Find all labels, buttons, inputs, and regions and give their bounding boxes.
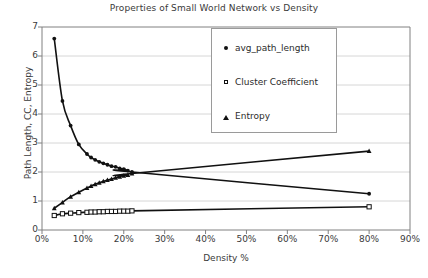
x-tick-label: 10% (62, 235, 104, 244)
data-point-square (89, 210, 93, 214)
legend-label: avg_path_length (235, 43, 310, 53)
chart-legend: avg_path_length Cluster Coefficient Entr… (211, 28, 337, 133)
x-tick-label: 70% (307, 235, 349, 244)
data-point-circle (97, 160, 101, 164)
data-point-circle (77, 143, 81, 147)
legend-item-entropy: Entropy (222, 111, 270, 121)
data-point-circle (367, 192, 371, 196)
open-square-marker-icon (222, 78, 230, 86)
data-point-square (69, 211, 73, 215)
data-point-circle (118, 167, 122, 171)
x-tick-label: 40% (185, 235, 227, 244)
data-point-square (85, 210, 89, 214)
legend-label: Entropy (235, 111, 270, 121)
data-point-square (130, 209, 134, 213)
data-point-square (109, 209, 113, 213)
x-tick-label: 20% (103, 235, 145, 244)
data-point-circle (101, 161, 105, 165)
data-point-circle (122, 167, 126, 171)
data-point-square (114, 209, 118, 213)
x-tick-label: 50% (225, 235, 267, 244)
data-point-circle (85, 152, 89, 156)
x-tick-label: 60% (266, 235, 308, 244)
legend-item-avg-path-length: avg_path_length (222, 43, 310, 53)
data-point-square (60, 212, 64, 216)
data-point-square (118, 209, 122, 213)
data-point-circle (110, 164, 114, 168)
data-point-square (97, 210, 101, 214)
data-point-circle (93, 158, 97, 162)
x-tick-label: 30% (144, 235, 186, 244)
data-point-square (105, 209, 109, 213)
x-axis-label: Density % (42, 253, 410, 263)
data-point-circle (61, 99, 65, 103)
legend-item-cluster-coefficient: Cluster Coefficient (222, 77, 318, 87)
data-point-square (126, 209, 130, 213)
data-point-square (101, 210, 105, 214)
filled-triangle-marker-icon (222, 112, 230, 120)
data-point-circle (106, 163, 110, 167)
chart-figure: Properties of Small World Network vs Den… (0, 0, 428, 278)
x-tick-label: 90% (389, 235, 428, 244)
data-point-square (122, 209, 126, 213)
data-point-circle (52, 37, 56, 41)
data-point-circle (126, 169, 130, 173)
data-point-square (77, 211, 81, 215)
data-point-square (93, 210, 97, 214)
data-point-circle (89, 156, 93, 160)
data-point-square (367, 205, 371, 209)
legend-label: Cluster Coefficient (235, 77, 318, 87)
figure-caption (6, 271, 422, 278)
data-point-circle (69, 124, 73, 128)
filled-circle-marker-icon (222, 44, 230, 52)
x-tick-label: 80% (348, 235, 390, 244)
data-point-square (52, 213, 56, 217)
x-tick-label: 0% (21, 235, 63, 244)
data-point-circle (114, 165, 118, 169)
